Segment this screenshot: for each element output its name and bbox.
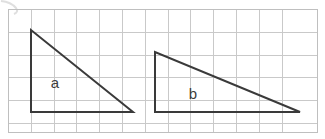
triangle-a [31, 30, 133, 112]
scan-smudge-artifact [1, 1, 17, 14]
triangle-b [155, 52, 300, 112]
triangle-b-label: b [189, 85, 197, 102]
grid-lines [8, 9, 318, 133]
figure-canvas: ab [0, 0, 325, 139]
triangle-a-label: a [51, 74, 60, 91]
geometry-diagram: ab [0, 0, 325, 139]
